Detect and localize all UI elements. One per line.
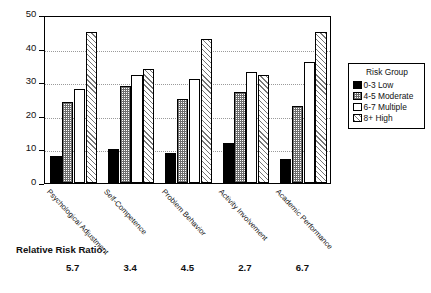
bar — [258, 75, 269, 183]
bar — [62, 102, 73, 183]
y-axis-tick-mark — [39, 184, 44, 185]
bar — [234, 92, 245, 183]
x-axis-category-label: Academic Performance — [275, 188, 334, 251]
legend-items: 0-3 Low4-5 Moderate6-7 Multiple8+ High — [353, 80, 421, 124]
x-axis-category-label: Problem Behavior — [160, 188, 207, 237]
y-axis: 01020304050 — [0, 0, 44, 186]
legend-item: 0-3 Low — [353, 80, 421, 91]
x-axis-category-label: Activity Involvement — [217, 188, 268, 242]
x-axis-category-label: Self-Competence — [103, 188, 149, 236]
relative-risk-ratio-value: 3.4 — [110, 262, 150, 273]
relative-risk-ratio-value: 6.7 — [282, 262, 322, 273]
legend-swatch-icon — [353, 103, 362, 111]
bar — [201, 39, 212, 183]
bar-group — [102, 17, 159, 183]
legend-item-label: 6-7 Multiple — [364, 103, 407, 111]
y-axis-tick-label: 10 — [26, 143, 36, 153]
legend-item-label: 0-3 Low — [364, 81, 394, 89]
legend-swatch-icon — [353, 114, 362, 122]
bar — [86, 32, 97, 183]
legend-swatch-icon — [353, 81, 362, 89]
bar-group — [160, 17, 217, 183]
bar-group — [217, 17, 274, 183]
bar-group — [275, 17, 332, 183]
relative-risk-ratio-value: 5.7 — [53, 262, 93, 273]
legend-swatch-icon — [353, 92, 362, 100]
bar — [120, 86, 131, 183]
bar — [74, 89, 85, 183]
bar — [246, 72, 257, 183]
legend-item-label: 8+ High — [364, 114, 393, 122]
plot-area — [44, 16, 331, 184]
bar — [315, 32, 326, 183]
bar — [177, 99, 188, 183]
bar-group — [45, 17, 102, 183]
bar — [189, 79, 200, 183]
legend-item-label: 4-5 Moderate — [364, 92, 414, 100]
legend-title: Risk Group — [353, 67, 421, 77]
y-axis-tick-label: 30 — [26, 76, 36, 86]
relative-risk-ratio-value: 2.7 — [225, 262, 265, 273]
bar — [131, 75, 142, 183]
y-axis-tick-label: 20 — [26, 110, 36, 120]
bar-chart-figure: 01020304050 Psychological AdjustmentSelf… — [0, 0, 431, 293]
y-axis-tick-label: 40 — [26, 43, 36, 53]
bar — [304, 62, 315, 183]
legend-item: 8+ High — [353, 113, 421, 124]
legend-item: 4-5 Moderate — [353, 91, 421, 102]
relative-risk-ratio-value: 4.5 — [168, 262, 208, 273]
bar — [108, 149, 119, 183]
relative-risk-ratio-row: Relative Risk Ratio: 5.73.44.52.76.7 — [0, 244, 431, 284]
relative-risk-ratio-label: Relative Risk Ratio: — [16, 244, 106, 255]
bar — [165, 153, 176, 183]
bar — [223, 143, 234, 183]
bar — [292, 106, 303, 183]
legend-box: Risk Group 0-3 Low4-5 Moderate6-7 Multip… — [348, 63, 425, 129]
plot-inner — [45, 17, 330, 183]
bar — [50, 156, 61, 183]
bar — [280, 159, 291, 183]
y-axis-tick-label: 50 — [26, 9, 36, 19]
bar — [143, 69, 154, 183]
legend-item: 6-7 Multiple — [353, 102, 421, 113]
